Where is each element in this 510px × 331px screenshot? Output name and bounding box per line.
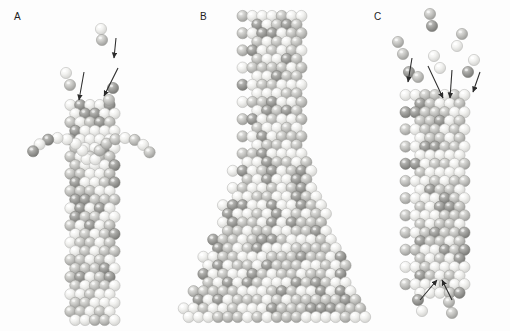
sphere: [392, 36, 403, 47]
sphere: [80, 314, 91, 325]
sphere: [400, 244, 411, 255]
sphere: [428, 50, 439, 61]
sphere: [271, 311, 282, 322]
sphere: [443, 296, 454, 307]
sphere: [27, 146, 38, 157]
sphere: [446, 307, 457, 318]
sphere: [400, 279, 411, 290]
sphere: [340, 311, 351, 322]
sphere: [281, 311, 292, 322]
sphere: [416, 305, 427, 316]
sphere: [237, 10, 248, 21]
sphere: [400, 89, 411, 100]
sphere: [237, 79, 248, 90]
sphere: [400, 175, 411, 186]
sphere: [360, 311, 371, 322]
figure-svg: [0, 0, 510, 331]
sphere: [109, 314, 120, 325]
sphere: [400, 141, 411, 152]
sphere: [60, 67, 71, 78]
sphere: [237, 45, 248, 56]
sphere: [252, 311, 263, 322]
sphere: [99, 314, 110, 325]
sphere: [70, 314, 81, 325]
sphere: [203, 311, 214, 322]
sphere: [400, 227, 411, 238]
sphere: [291, 311, 302, 322]
sphere-group: [27, 8, 479, 325]
sphere: [400, 210, 411, 221]
sphere: [330, 311, 341, 322]
sphere: [64, 79, 75, 90]
sphere: [412, 294, 423, 305]
sphere: [262, 311, 273, 322]
flow-arrow: [79, 72, 84, 100]
sphere: [110, 134, 121, 145]
sphere: [434, 287, 445, 298]
sphere: [95, 23, 106, 34]
sphere: [96, 34, 107, 45]
sphere: [227, 165, 238, 176]
sphere: [213, 311, 224, 322]
sphere: [119, 132, 130, 143]
sphere: [144, 147, 155, 158]
sphere: [400, 261, 411, 272]
sphere: [320, 311, 331, 322]
sphere: [222, 311, 233, 322]
sphere: [426, 20, 437, 31]
sphere: [232, 311, 243, 322]
sphere: [107, 82, 118, 93]
sphere: [311, 311, 322, 322]
sphere: [397, 48, 408, 59]
sphere: [468, 54, 479, 65]
sphere: [400, 193, 411, 204]
sphere: [103, 94, 114, 105]
sphere: [400, 107, 411, 118]
sphere: [400, 158, 411, 169]
sphere: [237, 114, 248, 125]
flow-arrow: [473, 72, 480, 92]
sphere: [434, 62, 445, 73]
sphere: [183, 311, 194, 322]
sphere: [462, 66, 473, 77]
sphere: [456, 28, 467, 39]
sphere: [237, 131, 248, 142]
sphere: [242, 311, 253, 322]
sphere: [237, 96, 248, 107]
sphere: [424, 8, 435, 19]
sphere: [451, 40, 462, 51]
sphere: [237, 62, 248, 73]
flow-arrow: [114, 38, 116, 58]
sphere: [350, 311, 361, 322]
sphere: [301, 311, 312, 322]
sphere: [412, 71, 423, 82]
sphere: [237, 28, 248, 39]
sphere: [454, 287, 465, 298]
sphere: [400, 124, 411, 135]
sphere: [193, 311, 204, 322]
sphere: [89, 314, 100, 325]
figure-canvas: A B C: [0, 0, 510, 331]
